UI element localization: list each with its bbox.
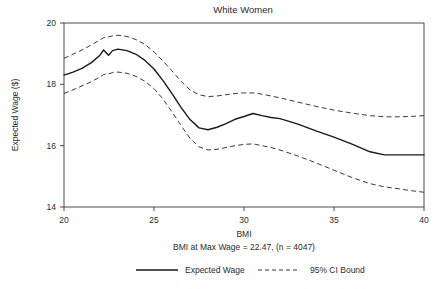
chart-title: White Women (213, 4, 272, 15)
x-tick-label: 40 (419, 215, 429, 225)
series-line-95-ci-upper-bound (64, 35, 424, 117)
chart-legend: Expected Wage 95% CI Bound (136, 265, 365, 275)
data-series-group (64, 35, 424, 192)
x-tick-label: 20 (59, 215, 69, 225)
y-axis-ticks: 14161820 (47, 18, 64, 212)
y-tick-label: 14 (47, 202, 57, 212)
legend-label-expected-wage: Expected Wage (185, 265, 245, 275)
chart-caption: BMI at Max Wage = 22.47, (n = 4047) (173, 242, 315, 252)
series-line-95-ci-lower-bound (64, 72, 424, 192)
series-line-expected-wage (64, 49, 424, 155)
x-tick-label: 35 (329, 215, 339, 225)
expected-wage-vs-bmi-chart: White Women Expected Wage ($) 14161820 2… (0, 0, 446, 289)
x-tick-label: 30 (239, 215, 249, 225)
plot-frame (64, 23, 424, 207)
y-tick-label: 20 (47, 18, 57, 28)
x-axis-ticks: 2025303540 (59, 207, 429, 225)
x-axis-title: BMI (236, 229, 251, 239)
chart-figure: White Women Expected Wage ($) 14161820 2… (0, 0, 446, 289)
y-tick-label: 18 (47, 79, 57, 89)
y-axis-title: Expected Wage ($) (10, 79, 20, 152)
legend-label-ci-bound: 95% CI Bound (310, 265, 365, 275)
y-tick-label: 16 (47, 141, 57, 151)
x-tick-label: 25 (149, 215, 159, 225)
